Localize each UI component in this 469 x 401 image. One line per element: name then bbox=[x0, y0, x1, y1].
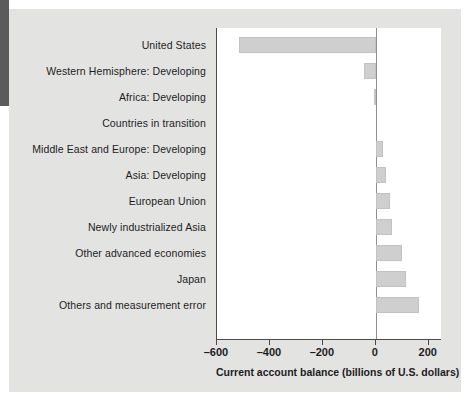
bar-row bbox=[217, 110, 441, 136]
bar bbox=[376, 193, 390, 209]
category-label: Western Hemisphere: Developing bbox=[0, 58, 206, 84]
bar-row bbox=[217, 58, 441, 84]
category-label: Africa: Developing bbox=[0, 84, 206, 110]
bar bbox=[376, 297, 420, 313]
x-tick-label: –400 bbox=[239, 346, 299, 358]
x-tick bbox=[428, 340, 429, 345]
category-label: Newly industrialized Asia bbox=[0, 214, 206, 240]
x-tick-label: 200 bbox=[398, 346, 458, 358]
category-label: Asia: Developing bbox=[0, 162, 206, 188]
category-label: Countries in transition bbox=[0, 110, 206, 136]
x-axis-title: Current account balance (billions of U.S… bbox=[216, 366, 451, 378]
x-tick bbox=[269, 340, 270, 345]
category-axis-labels: United StatesWestern Hemisphere: Develop… bbox=[0, 28, 206, 340]
bar bbox=[364, 63, 376, 79]
x-tick-label: –600 bbox=[186, 346, 246, 358]
bar-row bbox=[217, 32, 441, 58]
bar-row bbox=[217, 188, 441, 214]
x-tick bbox=[375, 340, 376, 345]
bar bbox=[239, 37, 376, 53]
bar-row bbox=[217, 84, 441, 110]
category-label: Japan bbox=[0, 266, 206, 292]
bar bbox=[376, 219, 392, 235]
x-tick-label: 0 bbox=[345, 346, 405, 358]
plot-area bbox=[216, 28, 441, 340]
bar bbox=[376, 141, 383, 157]
figure-container: United StatesWestern Hemisphere: Develop… bbox=[0, 0, 469, 401]
bar-row bbox=[217, 136, 441, 162]
bar bbox=[376, 167, 387, 183]
category-label: United States bbox=[0, 32, 206, 58]
bar-row bbox=[217, 292, 441, 318]
category-label: Middle East and Europe: Developing bbox=[0, 136, 206, 162]
bar bbox=[376, 245, 402, 261]
bar-row bbox=[217, 240, 441, 266]
x-tick bbox=[322, 340, 323, 345]
category-label: Others and measurement error bbox=[0, 292, 206, 318]
x-tick bbox=[216, 340, 217, 345]
bar-row bbox=[217, 162, 441, 188]
bar-row bbox=[217, 266, 441, 292]
bar-row bbox=[217, 214, 441, 240]
bar bbox=[374, 89, 376, 105]
bar bbox=[376, 271, 406, 287]
category-label: European Union bbox=[0, 188, 206, 214]
x-tick-label: –200 bbox=[292, 346, 352, 358]
category-label: Other advanced economies bbox=[0, 240, 206, 266]
